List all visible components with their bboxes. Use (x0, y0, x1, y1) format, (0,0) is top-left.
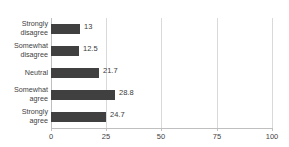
category-label-strongly-disagree: Strongly disagree (2, 20, 48, 37)
bar-strongly-agree (51, 112, 106, 122)
bar-chart: 13 12.5 21.7 28.8 24.7 Strongly disagree… (0, 0, 289, 147)
bar-value-label: 21.7 (103, 66, 118, 76)
bar-row: 21.7 (51, 62, 273, 84)
category-axis-labels: Strongly disagree Somewhat disagree Neut… (0, 18, 48, 128)
plot-area: 13 12.5 21.7 28.8 24.7 (51, 18, 273, 128)
bar-somewhat-disagree (51, 46, 79, 56)
value-axis-labels: 0 25 50 75 100 (51, 132, 273, 146)
xtick-mark-0 (51, 128, 52, 131)
bar-neutral (51, 68, 99, 78)
xtick-label-0: 0 (49, 132, 53, 141)
xtick-mark-100 (272, 128, 273, 131)
bar-value-label: 28.8 (119, 88, 134, 98)
category-label-somewhat-agree: Somewhat agree (2, 86, 48, 103)
bar-row: 24.7 (51, 106, 273, 128)
bar-value-label: 13 (84, 22, 92, 32)
bar-strongly-disagree (51, 24, 80, 34)
bar-somewhat-agree (51, 90, 115, 100)
category-label-strongly-agree: Strongly agree (2, 108, 48, 125)
bar-row: 12.5 (51, 40, 273, 62)
bar-value-label: 12.5 (83, 44, 98, 54)
xtick-label-100: 100 (266, 132, 279, 141)
xtick-mark-25 (106, 128, 107, 131)
bar-row: 13 (51, 18, 273, 40)
category-axis-line (51, 128, 273, 129)
xtick-mark-50 (161, 128, 162, 131)
cropped-title-remnant (0, 0, 289, 13)
category-label-neutral: Neutral (2, 69, 48, 78)
bar-row: 28.8 (51, 84, 273, 106)
xtick-label-25: 25 (102, 132, 110, 141)
category-label-somewhat-disagree: Somewhat disagree (2, 42, 48, 59)
xtick-mark-75 (217, 128, 218, 131)
bar-value-label: 24.7 (110, 110, 125, 120)
xtick-label-50: 50 (157, 132, 165, 141)
xtick-label-75: 75 (213, 132, 221, 141)
